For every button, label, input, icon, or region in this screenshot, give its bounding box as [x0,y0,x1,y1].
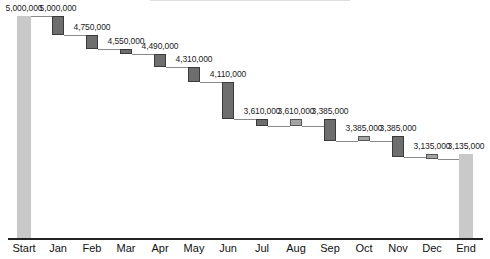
value-label: 4,750,000 [74,22,111,32]
x-tick-label: Aug [286,242,306,254]
x-tick-label: May [184,242,205,254]
connector-line [302,126,324,127]
bar-feb [86,35,98,50]
connector-line [404,157,426,158]
value-label: 3,610,000 [244,106,281,116]
value-label: 5,000,000 [40,3,77,13]
bar-start [17,16,31,238]
bar-jul [256,119,268,126]
bar-apr [154,54,166,67]
connector-line [438,159,459,160]
bar-nov [392,136,404,157]
bar-oct [358,136,370,141]
connector-line [98,49,120,50]
connector-line [370,141,392,142]
value-label: 5,000,000 [6,3,43,13]
x-axis-line [8,238,483,240]
x-tick-label: Start [12,242,35,254]
x-tick-label: Mar [117,242,136,254]
value-label: 4,310,000 [176,54,213,64]
x-tick-label: Jun [219,242,237,254]
value-label: 3,135,000 [448,141,485,151]
value-label: 3,385,000 [346,123,383,133]
x-tick-label: Oct [355,242,372,254]
value-label: 3,610,000 [278,106,315,116]
connector-line [64,35,86,36]
connector-line [200,82,222,83]
bar-aug [290,119,302,126]
cropped-title-edge [150,0,350,1]
x-tick-label: Dec [422,242,442,254]
value-label: 4,550,000 [108,36,145,46]
bar-jun [222,82,234,119]
x-tick-label: Jan [49,242,67,254]
value-label: 4,110,000 [210,69,246,79]
connector-line [31,16,52,17]
waterfall-chart: 5,000,0005,000,0004,750,0004,550,0004,49… [0,0,490,259]
connector-line [234,119,256,120]
x-tick-label: Jul [255,242,269,254]
bar-mar [120,49,132,53]
connector-line [132,54,154,55]
bar-jan [52,16,64,35]
value-label: 4,490,000 [142,41,179,51]
value-label: 3,135,000 [414,141,451,151]
connector-line [336,141,358,142]
bar-may [188,67,200,82]
connector-line [268,126,290,127]
bar-end [459,154,473,238]
x-tick-label: End [456,242,476,254]
x-tick-label: Apr [151,242,168,254]
value-label: 3,385,000 [380,123,417,133]
x-tick-label: Sep [320,242,340,254]
value-label: 3,385,000 [312,106,349,116]
bar-sep [324,119,336,141]
x-tick-label: Nov [388,242,408,254]
bar-dec [426,154,438,159]
connector-line [166,67,188,68]
x-tick-label: Feb [83,242,102,254]
